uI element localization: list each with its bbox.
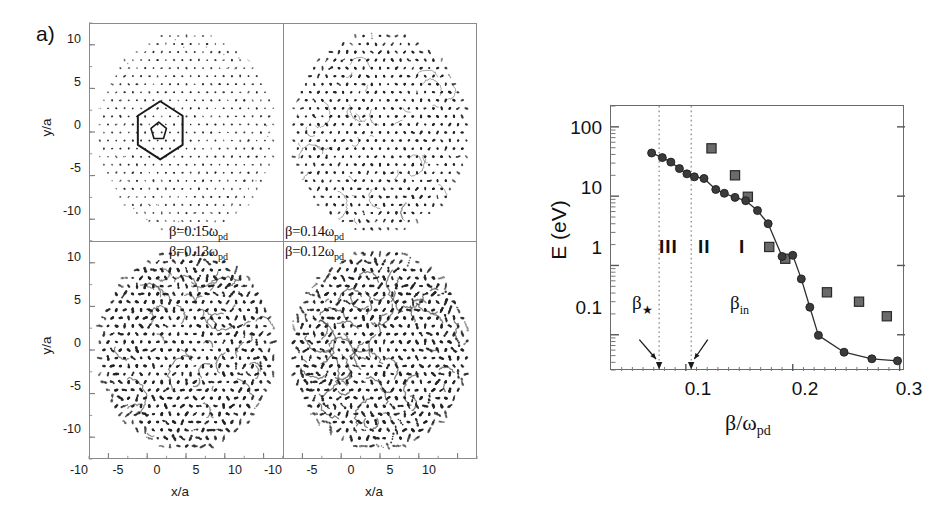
panel-a-ytick-5: 5: [53, 75, 81, 89]
panel-a-top-ylabel: y/a: [39, 108, 54, 148]
panel-a-r-xtick-5: 5: [375, 463, 405, 477]
beta-text-bl: β=0.13ω: [169, 243, 218, 259]
ytick-10: 10: [530, 177, 602, 199]
beta-sub-tl: pd: [218, 231, 228, 242]
ytick-1: 1: [530, 237, 602, 259]
xtick-0.1: 0.1: [673, 378, 723, 400]
beta-sub-bl: pd: [218, 251, 228, 262]
x-axis-label-main: β/ω: [725, 410, 757, 435]
panel-a-l-xtick-m5: -5: [103, 463, 133, 477]
ytick-100: 100: [530, 117, 602, 139]
beta-label-0.13: β=0.13ωpd: [169, 243, 228, 262]
x-axis-label: β/ωpd: [725, 410, 771, 439]
panel-a-left-xlabel: x/a: [171, 484, 189, 499]
figure-root: a) y/a y/a 10 5 0 -5 -10 10 5 0 -5 -10: [0, 0, 939, 519]
panel-a-letter: a): [36, 22, 55, 46]
panel-a: a) y/a y/a 10 5 0 -5 -10 10 5 0 -5 -10: [0, 0, 520, 519]
beta-sub-tr: pd: [334, 231, 344, 242]
panel-a-b-ytick-10: 10: [53, 250, 81, 264]
region-label-I: I: [739, 236, 745, 258]
panel-a-l-xtick-5: 5: [181, 463, 211, 477]
beta-text-tl: β=0.15ω: [169, 223, 218, 239]
panel-a-r-xtick-0: 0: [336, 463, 366, 477]
beta-star-glyph: β: [632, 292, 642, 313]
beta-star-label: β★: [632, 292, 653, 318]
snapshot-beta-0.13: [89, 241, 283, 459]
panel-a-b-ytick-m10: -10: [53, 422, 81, 436]
x-axis-label-sub: pd: [757, 423, 771, 438]
panel-a-b-ytick-5: 5: [53, 293, 81, 307]
panel-a-ytick-m5: -5: [53, 161, 81, 175]
panel-a-l-xtick-0: 0: [142, 463, 172, 477]
xtick-0.3: 0.3: [884, 378, 934, 400]
beta-text-br: β=0.12ω: [285, 243, 334, 259]
ytick-0.1: 0.1: [530, 297, 602, 319]
beta-sub-br: pd: [334, 251, 344, 262]
plot-area: [610, 105, 904, 370]
panel-a-ytick-0: 0: [53, 118, 81, 132]
panel-a-bottom-ylabel: y/a: [39, 326, 54, 366]
panel-a-ytick-m10: -10: [53, 204, 81, 218]
beta-in-sub: in: [740, 303, 749, 317]
panel-a-right-xlabel: x/a: [365, 484, 383, 499]
beta-star-sub: ★: [642, 303, 653, 317]
xtick-0.2: 0.2: [780, 378, 830, 400]
panel-a-r-xtick-m5: -5: [297, 463, 327, 477]
snapshot-beta-0.12: [283, 241, 477, 459]
beta-text-tr: β=0.14ω: [285, 223, 334, 239]
panel-a-r-xtick-10: 10: [414, 463, 444, 477]
beta-in-label: βin: [730, 292, 749, 318]
region-label-II: II: [698, 236, 711, 258]
beta-label-0.15: β=0.15ωpd: [169, 223, 228, 242]
panel-a-b-ytick-0: 0: [53, 336, 81, 350]
panel-b: b) E (eV) 100 10 1 0.1 III II I β★ βin 0…: [520, 0, 939, 519]
snapshot-beta-0.15: [89, 23, 283, 241]
beta-in-glyph: β: [730, 292, 740, 313]
panel-a-b-ytick-m5: -5: [53, 379, 81, 393]
beta-label-0.12: β=0.12ωpd: [285, 243, 344, 262]
panel-a-ytick-10: 10: [53, 32, 81, 46]
panel-a-l-xtick-10: 10: [220, 463, 250, 477]
region-label-III: III: [659, 236, 678, 258]
snapshot-beta-0.14: [283, 23, 477, 241]
panel-a-l-xtick-m10: -10: [64, 463, 94, 477]
beta-label-0.14: β=0.14ωpd: [285, 223, 344, 242]
panel-a-r-xtick-m10: -10: [258, 463, 288, 477]
